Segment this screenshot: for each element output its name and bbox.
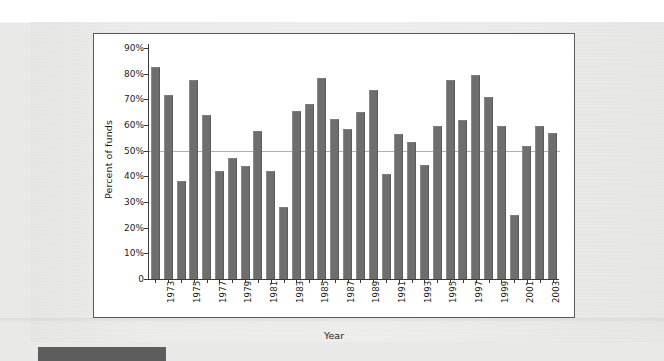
x-axis-tick-mark	[232, 280, 233, 283]
y-axis-tick-label: 20%	[100, 223, 144, 233]
y-axis-tick-label: 70%	[100, 94, 144, 104]
x-axis-tick-label: 1995	[448, 281, 458, 303]
x-axis-tick-mark	[514, 280, 515, 283]
bar	[241, 166, 250, 279]
x-axis-tick-label: 1999	[500, 281, 510, 303]
bar	[305, 104, 314, 279]
x-axis-tick-label: 1977	[218, 281, 228, 303]
bar	[497, 126, 506, 279]
bar	[330, 119, 339, 279]
bar	[356, 112, 365, 279]
bar	[279, 207, 288, 279]
x-axis-tick-label: 1989	[371, 281, 381, 303]
chart-frame: Percent of funds 010%20%30%40%50%60%70%8…	[93, 33, 575, 318]
bar	[228, 158, 237, 279]
bar	[484, 97, 493, 279]
x-axis-tick-mark	[207, 280, 208, 283]
bar	[510, 215, 519, 279]
bar	[151, 67, 160, 279]
x-axis-tick-label: 1997	[474, 281, 484, 303]
x-axis-tick-mark	[258, 280, 259, 283]
bar	[317, 78, 326, 279]
y-axis-tick-label: 40%	[100, 171, 144, 181]
bar	[177, 181, 186, 279]
x-axis-tick-mark	[284, 280, 285, 283]
x-axis-tick-label: 2001	[525, 281, 535, 303]
x-axis-tick-label: 1991	[397, 281, 407, 303]
bar	[522, 146, 531, 279]
x-axis-tick-mark	[181, 280, 182, 283]
x-axis-tick-label: 1987	[346, 281, 356, 303]
bar	[471, 75, 480, 279]
bar	[164, 95, 173, 279]
x-axis-tick-mark	[540, 280, 541, 283]
bar	[292, 111, 301, 279]
x-axis-tick-mark	[463, 280, 464, 283]
x-axis-tick-label: 1983	[295, 281, 305, 303]
y-axis-tick-label: 30%	[100, 197, 144, 207]
bar	[420, 165, 429, 279]
x-axis-tick-label: 1993	[423, 281, 433, 303]
y-axis-tick-label: 10%	[100, 248, 144, 258]
scanned-page-background: Percent of funds 010%20%30%40%50%60%70%8…	[0, 0, 664, 361]
bar	[369, 90, 378, 279]
x-axis-tick-labels: 1973197519771979198119831985198719891991…	[149, 284, 559, 318]
x-axis-tick-mark	[309, 280, 310, 283]
bar	[382, 174, 391, 279]
bar	[253, 131, 262, 279]
bar	[535, 126, 544, 279]
x-axis-tick-label: 1979	[243, 281, 253, 303]
x-axis-title: Year	[94, 330, 574, 341]
x-axis-tick-label: 1985	[320, 281, 330, 303]
chart-plot-wrapper: Percent of funds 010%20%30%40%50%60%70%8…	[94, 34, 574, 317]
bar	[407, 142, 416, 279]
bar	[215, 171, 224, 279]
bar	[433, 126, 442, 279]
x-axis-tick-label: 1975	[192, 281, 202, 303]
x-axis-tick-label: 1981	[269, 281, 279, 303]
x-axis-tick-mark	[335, 280, 336, 283]
bar	[189, 80, 198, 279]
y-axis-tick-label: 90%	[100, 43, 144, 53]
bar	[202, 115, 211, 279]
bar	[394, 134, 403, 279]
x-axis-tick-mark	[489, 280, 490, 283]
bar	[458, 120, 467, 279]
y-axis-tick-label: 80%	[100, 69, 144, 79]
bars-plot-area	[149, 48, 559, 279]
bar	[266, 171, 275, 279]
y-axis-tick-label: 50%	[100, 146, 144, 156]
y-axis-tick-label: 60%	[100, 120, 144, 130]
x-axis-tick-label: 2003	[551, 281, 561, 303]
x-axis-tick-mark	[155, 280, 156, 283]
x-axis-tick-mark	[360, 280, 361, 283]
bar	[548, 133, 557, 279]
bottom-dark-strip	[38, 347, 166, 361]
y-axis-tick-labels: 010%20%30%40%50%60%70%80%90%	[100, 34, 144, 317]
x-axis-tick-mark	[412, 280, 413, 283]
x-axis-tick-mark	[386, 280, 387, 283]
page-shadow-band	[0, 318, 664, 323]
y-axis-tick-label: 0	[100, 274, 144, 284]
x-axis-tick-mark	[437, 280, 438, 283]
x-axis-tick-label: 1973	[166, 281, 176, 303]
bar	[343, 129, 352, 279]
bar	[446, 80, 455, 279]
